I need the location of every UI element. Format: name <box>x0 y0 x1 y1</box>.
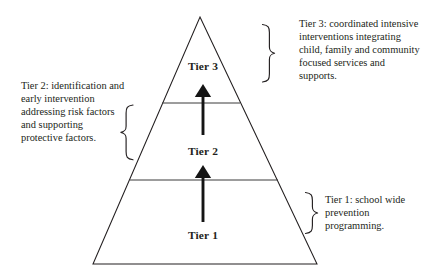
tier-1-label: Tier 1 <box>170 229 236 241</box>
tier-2-callout-text: Tier 2: identification and early interve… <box>21 79 125 144</box>
tier-3-label: Tier 3 <box>170 60 236 72</box>
tier-2-label: Tier 2 <box>170 145 236 157</box>
tier-3-callout-text: Tier 3: coordinated intensive interventi… <box>299 17 421 82</box>
tier-1-callout-text: Tier 1: school wide prevention programmi… <box>325 193 421 232</box>
right-curly-brace-tier3-icon <box>263 25 275 83</box>
diagram-canvas: Tier 3 Tier 2 Tier 1 Tier 3: coordinated… <box>0 0 423 278</box>
right-curly-brace-tier1-icon <box>306 193 318 234</box>
